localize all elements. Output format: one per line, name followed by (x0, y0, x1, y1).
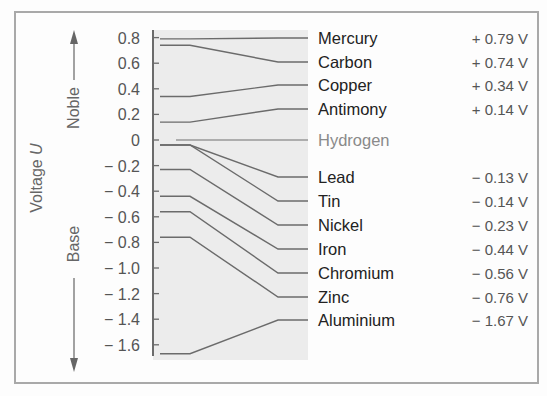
y-axis-title: Voltage U (28, 143, 45, 213)
voltage-value-lead: − 0.13 V (472, 169, 528, 186)
voltage-value-aluminium: − 1.67 V (472, 312, 528, 329)
element-label-chromium: Chromium (318, 264, 394, 282)
element-label-carbon: Carbon (318, 53, 372, 71)
noble-label: Noble (65, 87, 82, 129)
voltage-value-copper: + 0.34 V (472, 77, 528, 94)
voltage-value-tin: − 0.14 V (472, 193, 528, 210)
y-tick-label: − 0.6 (104, 209, 140, 226)
voltage-value-mercury: + 0.79 V (472, 30, 528, 47)
y-tick-label: − 1.2 (104, 286, 140, 303)
voltage-value-nickel: − 0.23 V (472, 217, 528, 234)
down-arrow-icon (70, 358, 78, 372)
voltage-value-iron: − 0.44 V (472, 241, 528, 258)
element-label-mercury: Mercury (318, 29, 378, 47)
base-label: Base (65, 226, 82, 263)
y-tick-label: 0.2 (118, 106, 140, 123)
element-label-tin: Tin (318, 192, 340, 210)
element-label-copper: Copper (318, 76, 373, 94)
y-tick-label: 0.8 (118, 30, 140, 47)
up-arrow-icon (70, 30, 78, 44)
y-tick-label: − 0.4 (104, 183, 140, 200)
voltage-value-antimony: + 0.14 V (472, 101, 528, 118)
element-label-aluminium: Aluminium (318, 311, 395, 329)
y-tick-label: 0 (131, 132, 140, 149)
element-label-antimony: Antimony (318, 100, 388, 118)
voltage-value-carbon: + 0.74 V (472, 54, 528, 71)
element-label-nickel: Nickel (318, 216, 363, 234)
y-tick-label: − 1.4 (104, 311, 140, 328)
voltage-value-zinc: − 0.76 V (472, 289, 528, 306)
y-tick-label: − 0.8 (104, 234, 140, 251)
y-tick-label: 0.4 (118, 81, 140, 98)
element-label-hydrogen: Hydrogen (318, 131, 390, 149)
y-tick-label: − 0.2 (104, 158, 140, 175)
y-tick-label: − 1.0 (104, 260, 140, 277)
y-tick-label: − 1.6 (104, 337, 140, 354)
y-tick-label: 0.6 (118, 55, 140, 72)
element-label-zinc: Zinc (318, 288, 349, 306)
element-label-iron: Iron (318, 240, 346, 258)
voltage-value-chromium: − 0.56 V (472, 265, 528, 282)
element-label-lead: Lead (318, 168, 355, 186)
electrochemical-series-chart: 0.80.60.40.20− 0.2− 0.4− 0.6− 0.8− 1.0− … (0, 0, 547, 396)
